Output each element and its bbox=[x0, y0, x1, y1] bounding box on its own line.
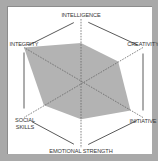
radar-chart: INTELLIGENCE CREATIVITY INITIATIVE EMOTI… bbox=[0, 0, 158, 161]
data-area bbox=[24, 43, 131, 119]
label-creativity: CREATIVITY bbox=[127, 41, 158, 47]
label-emotional-strength: EMOTIONAL STRENGTH bbox=[49, 148, 112, 154]
label-initiative: INITIATIVE bbox=[130, 118, 157, 124]
label-integrity: INTEGRITY bbox=[10, 41, 39, 47]
label-social-skills-line1: SOCIAL bbox=[15, 117, 35, 123]
label-social-skills-line2: SKILLS bbox=[16, 124, 35, 130]
label-intelligence: INTELLIGENCE bbox=[61, 12, 101, 18]
